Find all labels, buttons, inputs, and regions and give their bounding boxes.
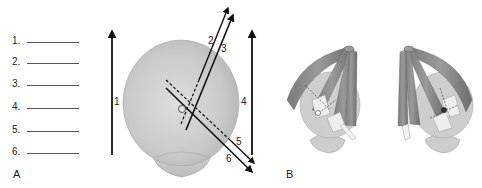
axis-label-4: 4 bbox=[241, 96, 247, 107]
eye-diagram: 1 4 2 3 5 6 bbox=[0, 0, 482, 188]
muscle-lateral bbox=[398, 50, 408, 126]
axis-label-3: 3 bbox=[221, 43, 227, 54]
axis-label-2: 2 bbox=[208, 35, 214, 46]
axis-label-1: 1 bbox=[114, 96, 120, 107]
center-of-rotation bbox=[179, 106, 186, 113]
axis-arrow-5 bbox=[230, 140, 254, 163]
eye-b-right bbox=[398, 46, 473, 153]
axis-label-6: 6 bbox=[226, 153, 232, 164]
axis-label-5: 5 bbox=[236, 136, 242, 147]
eye-b-left bbox=[287, 46, 360, 153]
